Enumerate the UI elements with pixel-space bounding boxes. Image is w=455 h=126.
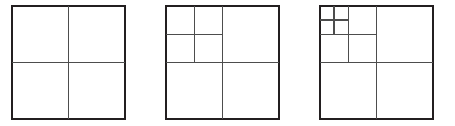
quadtree-figure bbox=[0, 0, 455, 126]
quadtree-panel-3 bbox=[320, 6, 433, 119]
quadtree-panel-1 bbox=[12, 6, 125, 119]
quadtree-svg bbox=[0, 0, 455, 126]
quadtree-panel-2 bbox=[166, 6, 279, 119]
